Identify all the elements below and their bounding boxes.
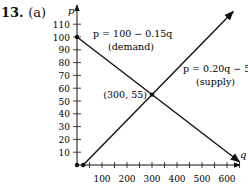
x-tick-label: 600 (218, 174, 235, 184)
x-tick-label: 300 (143, 174, 160, 184)
supply-demand-chart: qp10020030040050060010203040506070809010… (0, 0, 248, 187)
y-tick-label: 100 (53, 33, 70, 43)
x-axis-label: q (240, 149, 246, 160)
data-point (75, 35, 79, 39)
demand-line (77, 37, 240, 162)
y-tick-label: 80 (59, 58, 71, 68)
y-tick-label: 10 (59, 148, 71, 158)
y-axis-label: p (68, 5, 75, 16)
data-point (81, 163, 85, 167)
y-tick-label: 30 (59, 122, 71, 132)
y-tick-label: 40 (59, 109, 71, 119)
x-tick-label: 200 (118, 174, 135, 184)
y-tick-label: 20 (59, 135, 71, 145)
y-tick-label: 90 (59, 45, 71, 55)
x-tick-label: 400 (168, 174, 185, 184)
demand-label: (demand) (108, 41, 154, 52)
supply-equation-label: p = 0.20q − 5 (183, 63, 248, 74)
y-tick-label: 50 (59, 97, 71, 107)
y-tick-label: 60 (59, 84, 71, 94)
supply-label: (supply) (196, 76, 235, 87)
equilibrium-label: (300, 55) (103, 89, 147, 100)
data-point (150, 92, 154, 96)
x-tick-label: 100 (93, 174, 110, 184)
y-tick-label: 70 (59, 71, 71, 81)
x-tick-label: 500 (193, 174, 210, 184)
demand-equation-label: p = 100 − 0.15q (93, 28, 172, 39)
data-point (75, 163, 79, 167)
y-tick-label: 110 (53, 20, 70, 30)
